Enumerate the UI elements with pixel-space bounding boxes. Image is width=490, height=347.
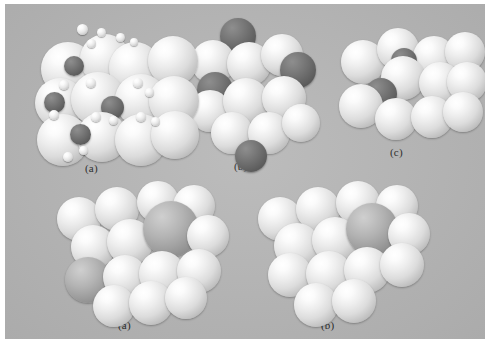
panel-bottom-a xyxy=(45,179,240,334)
panel-bottom-b xyxy=(250,179,445,334)
atom-sphere-tiny xyxy=(63,152,73,162)
atom-sphere-tiny xyxy=(86,78,96,88)
figure-plate: (a) (b) (c) (a) (b) xyxy=(5,4,485,339)
atom-sphere-tiny xyxy=(97,28,106,37)
atom-sphere-tiny xyxy=(130,38,138,46)
atom-sphere-tiny xyxy=(109,116,118,125)
atom-sphere-light xyxy=(282,104,320,142)
atom-sphere-light xyxy=(332,279,376,323)
atom-sphere-tiny xyxy=(136,112,146,122)
atom-sphere-tiny xyxy=(151,117,160,126)
panel-top-b xyxy=(187,16,337,181)
atom-sphere-tiny xyxy=(49,110,59,120)
atom-sphere-tiny xyxy=(133,78,143,88)
panel-label-top-a: (a) xyxy=(85,162,98,174)
atom-sphere-tiny xyxy=(87,39,96,48)
panel-label-top-c: (c) xyxy=(390,146,403,158)
panel-top-a xyxy=(23,16,208,181)
atom-sphere-dark xyxy=(70,124,91,145)
figure-root: (a) (b) (c) (a) (b) xyxy=(0,0,490,347)
atom-sphere-light xyxy=(443,92,483,132)
atom-sphere-dark xyxy=(235,140,267,172)
panel-top-c xyxy=(335,22,485,177)
atom-sphere-tiny xyxy=(59,80,69,90)
atom-sphere-tiny xyxy=(145,88,154,97)
atom-sphere-light xyxy=(165,277,207,319)
atom-sphere-tiny xyxy=(77,24,88,35)
atom-sphere-tiny xyxy=(116,33,125,42)
atom-sphere-tiny xyxy=(79,146,88,155)
atom-sphere-dark xyxy=(64,56,84,76)
atom-sphere-light xyxy=(380,243,424,287)
atom-sphere-tiny xyxy=(91,112,101,122)
